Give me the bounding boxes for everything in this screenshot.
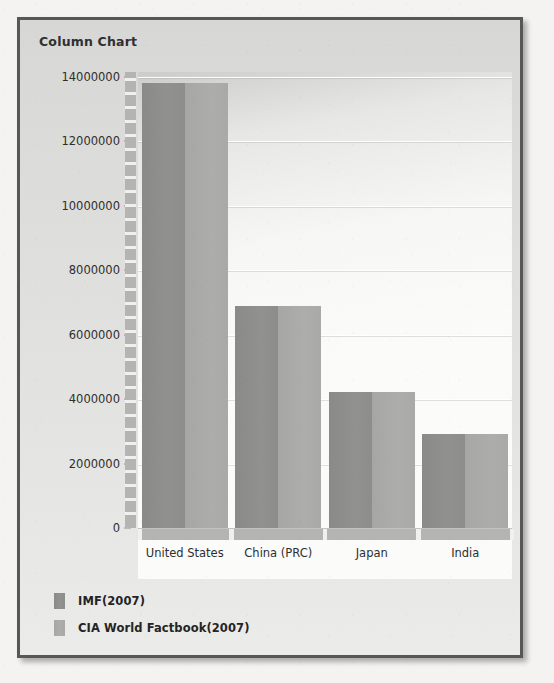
- legend-swatch-icon: [54, 593, 65, 609]
- y-axis-tick-label: 6000000: [69, 328, 120, 342]
- y-axis-notch: [125, 148, 136, 151]
- legend-swatch-icon: [54, 620, 65, 636]
- bar-group: [329, 72, 415, 579]
- bar[interactable]: [422, 434, 465, 528]
- plot-area: [138, 72, 512, 579]
- bar[interactable]: [465, 434, 508, 528]
- screenshot-page: Column Chart 020000004000000600000080000…: [0, 0, 554, 683]
- y-axis-notch: [125, 372, 136, 375]
- y-axis-notch: [125, 470, 136, 473]
- y-axis-notch: [125, 190, 136, 193]
- bar[interactable]: [329, 392, 372, 528]
- y-axis-notch: [125, 106, 136, 109]
- chart-panel-background: Column Chart 020000004000000600000080000…: [20, 20, 520, 655]
- y-axis-notch: [125, 78, 136, 81]
- chart-title: Column Chart: [39, 34, 137, 49]
- y-axis-notch: [125, 162, 136, 165]
- x-axis-notch: [138, 529, 142, 540]
- y-axis-notch: [125, 498, 136, 501]
- legend-item[interactable]: IMF(2007): [38, 587, 478, 614]
- y-axis-notch: [125, 400, 136, 403]
- x-axis-notch: [323, 529, 327, 540]
- legend-item-label: IMF(2007): [78, 594, 145, 608]
- legend-item-label: CIA World Factbook(2007): [78, 621, 250, 635]
- x-axis-tick-label: India: [451, 546, 479, 560]
- y-axis-notch: [125, 456, 136, 459]
- y-axis-tick-label: 8000000: [69, 263, 120, 277]
- bar[interactable]: [142, 83, 185, 528]
- y-axis-notch: [125, 218, 136, 221]
- bar[interactable]: [235, 306, 278, 528]
- y-axis-notch: [125, 330, 136, 333]
- y-axis-notch: [125, 484, 136, 487]
- y-axis-notch: [125, 92, 136, 95]
- bar[interactable]: [372, 392, 415, 528]
- y-axis-notch: [125, 246, 136, 249]
- y-axis-notch: [125, 358, 136, 361]
- y-axis-notch: [125, 120, 136, 123]
- y-axis-notch: [125, 512, 136, 515]
- y-axis-tick-label: 10000000: [61, 199, 120, 213]
- y-axis-notch: [125, 134, 136, 137]
- y-axis-notch: [125, 176, 136, 179]
- x-axis-labels: United StatesChina (PRC)JapanIndia: [138, 546, 522, 568]
- y-axis-tick-label: 2000000: [69, 457, 120, 471]
- y-axis-tick-label: 0: [113, 521, 120, 535]
- y-axis-notch: [125, 414, 136, 417]
- y-axis-tick-label: 4000000: [69, 392, 120, 406]
- y-axis-tick-label: 14000000: [61, 70, 120, 84]
- bar-group: [422, 72, 508, 579]
- chart-legend: IMF(2007) CIA World Factbook(2007): [38, 587, 478, 641]
- x-axis-tick-label: Japan: [356, 546, 388, 560]
- y-axis-notch: [125, 302, 136, 305]
- y-axis-tick-label: 12000000: [61, 134, 120, 148]
- x-axis-tick-label: United States: [146, 546, 224, 560]
- y-axis-notch: [125, 316, 136, 319]
- x-axis-tick-label: China (PRC): [244, 546, 312, 560]
- y-axis-band: [125, 72, 136, 528]
- y-axis-notch: [125, 288, 136, 291]
- y-axis-labels: 0200000040000006000000800000010000000120…: [44, 72, 120, 528]
- legend-item[interactable]: CIA World Factbook(2007): [38, 614, 478, 641]
- x-axis-notch: [229, 529, 233, 540]
- chart-panel: Column Chart 020000004000000600000080000…: [17, 17, 523, 658]
- bar[interactable]: [185, 83, 228, 528]
- y-axis-notch: [125, 386, 136, 389]
- x-axis-band: [138, 529, 512, 540]
- y-axis-notch: [125, 442, 136, 445]
- bar-group: [235, 72, 321, 579]
- x-axis-notch: [510, 529, 514, 540]
- y-axis-notch: [125, 344, 136, 347]
- x-axis-notch: [416, 529, 420, 540]
- y-axis-notch: [125, 204, 136, 207]
- bar-group: [142, 72, 228, 579]
- y-axis-notch: [125, 274, 136, 277]
- y-axis-notch: [125, 428, 136, 431]
- y-axis-notch: [125, 232, 136, 235]
- y-axis-notch: [125, 260, 136, 263]
- bar[interactable]: [278, 306, 321, 528]
